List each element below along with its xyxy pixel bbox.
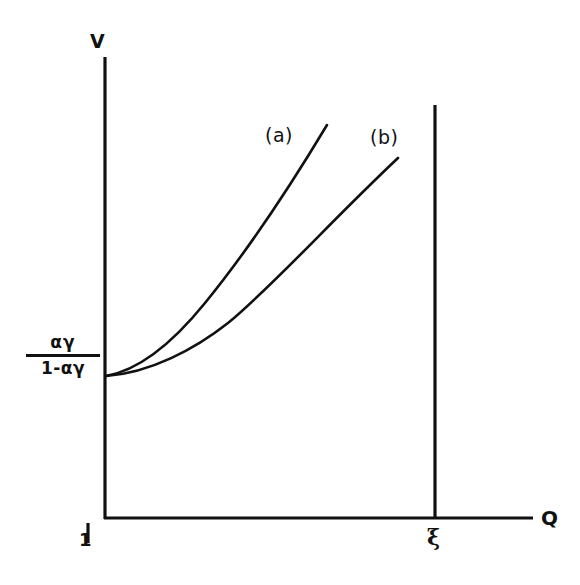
- x-axis-label: Q: [541, 508, 558, 528]
- figure-canvas: V Q 1 ξ (a) (b) αγ 1-αγ: [0, 0, 580, 585]
- curve-a: [106, 125, 327, 376]
- y-intercept-fraction-label: αγ 1-αγ: [26, 334, 100, 377]
- fraction-bar: [26, 354, 100, 357]
- curve-b: [106, 158, 398, 376]
- x-tick-label-origin: 1: [79, 531, 92, 549]
- curve-b-label: (b): [370, 128, 398, 147]
- curve-a-label: (a): [265, 126, 293, 145]
- y-intercept-denominator: 1-αγ: [26, 359, 100, 377]
- y-axis-label: V: [90, 32, 105, 51]
- y-intercept-numerator: αγ: [26, 334, 100, 353]
- plot-svg: [0, 0, 580, 585]
- x-tick-label-xi: ξ: [427, 526, 440, 548]
